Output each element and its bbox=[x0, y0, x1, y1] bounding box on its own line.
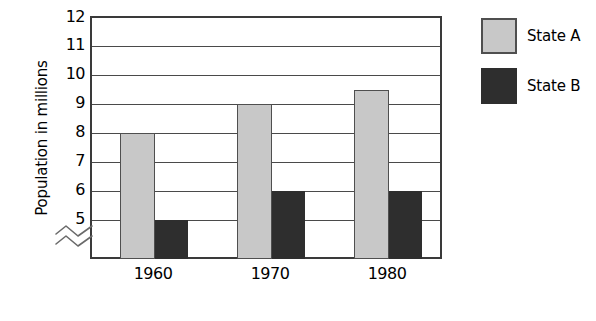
legend-label-state-b: State B bbox=[527, 77, 580, 95]
bar-1970-state-b bbox=[272, 191, 305, 259]
legend-label-state-a: State A bbox=[527, 27, 580, 45]
bar-1980-state-a bbox=[354, 90, 389, 259]
bar-chart: Population in millions 12 11 10 9 8 7 6 … bbox=[0, 0, 596, 321]
legend-swatch-state-a bbox=[481, 18, 517, 54]
x-tick-label-1970: 1970 bbox=[225, 264, 315, 283]
y-tick-label-12: 12 bbox=[55, 9, 85, 25]
bar-1960-state-a bbox=[120, 133, 155, 259]
y-tick-label-6: 6 bbox=[55, 182, 85, 198]
y-axis-title: Population in millions bbox=[33, 18, 51, 258]
bar-1970-state-a bbox=[237, 104, 272, 259]
x-tick-label-1960: 1960 bbox=[108, 264, 198, 283]
y-tick-label-10: 10 bbox=[55, 66, 85, 82]
y-tick-label-8: 8 bbox=[55, 124, 85, 140]
gridline-10 bbox=[92, 75, 440, 76]
bar-1960-state-b bbox=[155, 220, 188, 259]
x-tick-label-1980: 1980 bbox=[342, 264, 432, 283]
bar-1980-state-b bbox=[389, 191, 422, 259]
plot-area bbox=[90, 16, 442, 259]
y-tick-label-11: 11 bbox=[55, 37, 85, 53]
y-tick-label-7: 7 bbox=[55, 153, 85, 169]
y-tick-label-9: 9 bbox=[55, 95, 85, 111]
gridline-11 bbox=[92, 46, 440, 47]
axis-break-icon bbox=[52, 222, 100, 256]
legend-swatch-state-b bbox=[481, 68, 517, 104]
